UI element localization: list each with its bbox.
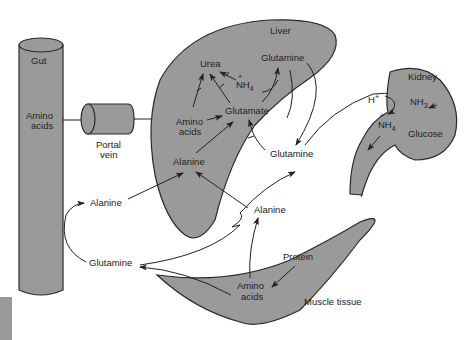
glutamate-label: Glutamate: [225, 105, 269, 116]
vein-label: vein: [100, 149, 117, 160]
alanine-left-label: Alanine: [90, 197, 122, 208]
liver-label: Liver: [270, 25, 291, 36]
gut-glutamine-alanine-arrow: [64, 203, 86, 262]
nh4-charge: +: [238, 73, 242, 80]
kidney-nh4-charge: +: [380, 112, 384, 119]
liver-acids-label: acids: [179, 126, 201, 137]
protein-label: Protein: [283, 251, 313, 262]
liver-alanine-label: Alanine: [173, 156, 205, 167]
glutamine-left-label: Glutamine: [89, 257, 132, 268]
gut-organ: [19, 38, 63, 295]
kidney-label: Kidney: [408, 71, 437, 82]
h-plus-label: H+: [368, 93, 379, 105]
gut-acids-label: acids: [31, 120, 53, 131]
urea-label: Urea: [200, 58, 221, 69]
muscle-acids-label: acids: [241, 291, 263, 302]
gut-label: Gut: [31, 55, 47, 66]
muscle-tissue-label: Muscle tissue: [304, 296, 362, 307]
glucose-label: Glucose: [408, 128, 443, 139]
page-fragment: [0, 297, 12, 340]
muscle-amino-label: Amino: [237, 280, 264, 291]
alanine-mid-label: Alanine: [254, 204, 286, 215]
glutamine-mid-label: Glutamine: [270, 148, 313, 159]
portal-vein-organ: [81, 104, 134, 134]
liver-glutamine-label: Glutamine: [261, 52, 304, 63]
amino-acid-metabolism-diagram: Gut Amino acids Portal vein Liver Urea N…: [0, 0, 470, 340]
